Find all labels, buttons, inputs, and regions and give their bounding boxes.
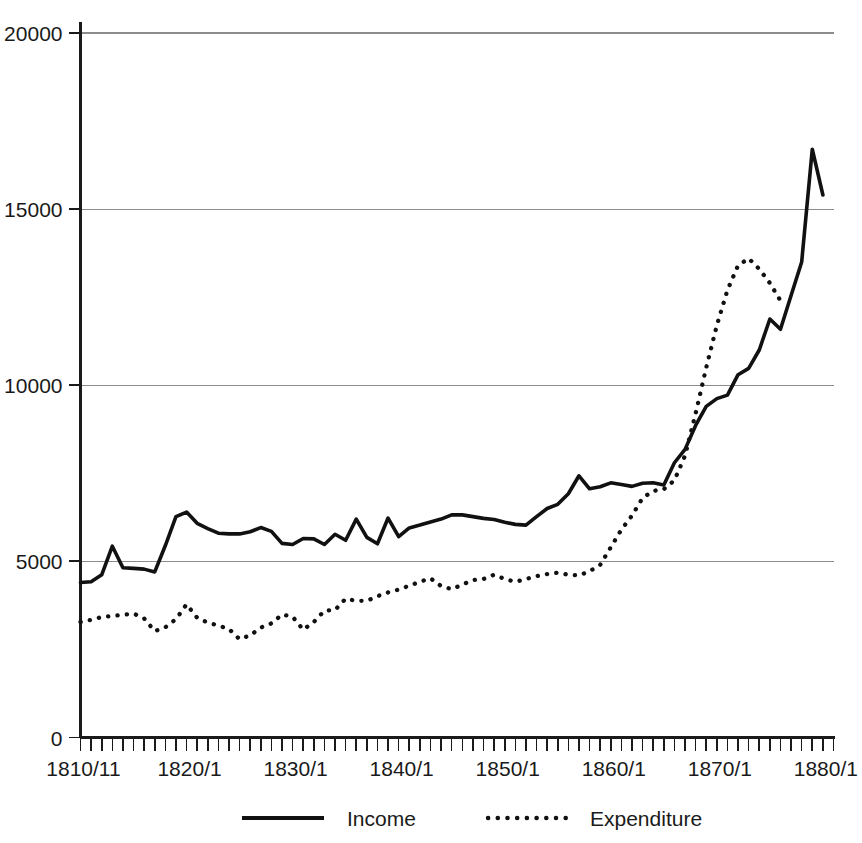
x-axis-tick-label: 1870/1 bbox=[688, 757, 752, 780]
legend-label-expenditure: Expenditure bbox=[590, 807, 702, 830]
gridlines-group bbox=[69, 33, 834, 738]
line-chart-canvas: 05000100001500020000 1810/111820/11830/1… bbox=[0, 0, 862, 843]
y-axis-tick-label: 0 bbox=[51, 727, 63, 750]
y-axis-tick-label: 5000 bbox=[16, 550, 63, 573]
legend-label-income: Income bbox=[347, 807, 416, 830]
y-axis-tick-label: 15000 bbox=[4, 198, 62, 221]
series-line-expenditure bbox=[81, 258, 781, 639]
y-axis-tick-label: 20000 bbox=[4, 22, 62, 45]
x-axis-ticks-group bbox=[81, 738, 834, 751]
x-axis-tick-label: 1820/1 bbox=[157, 757, 221, 780]
x-axis-tick-label: 1840/1 bbox=[370, 757, 434, 780]
x-axis-tick-label: 1850/1 bbox=[476, 757, 540, 780]
x-axis-tick-label: 1880/1 bbox=[794, 757, 858, 780]
y-axis-tick-label: 10000 bbox=[4, 374, 62, 397]
series-line-income bbox=[81, 149, 823, 582]
x-axis-tick-label: 1810/11 bbox=[46, 757, 120, 780]
x-axis-tick-labels-group: 1810/111820/11830/11840/11850/11860/1187… bbox=[46, 757, 858, 780]
x-axis-tick-label: 1830/1 bbox=[263, 757, 327, 780]
x-axis-tick-label: 1860/1 bbox=[582, 757, 646, 780]
chart-figure: 05000100001500020000 1810/111820/11830/1… bbox=[0, 0, 862, 843]
chart-legend: Income Expenditure bbox=[242, 807, 702, 830]
y-axis-tick-labels-group: 05000100001500020000 bbox=[4, 22, 62, 750]
